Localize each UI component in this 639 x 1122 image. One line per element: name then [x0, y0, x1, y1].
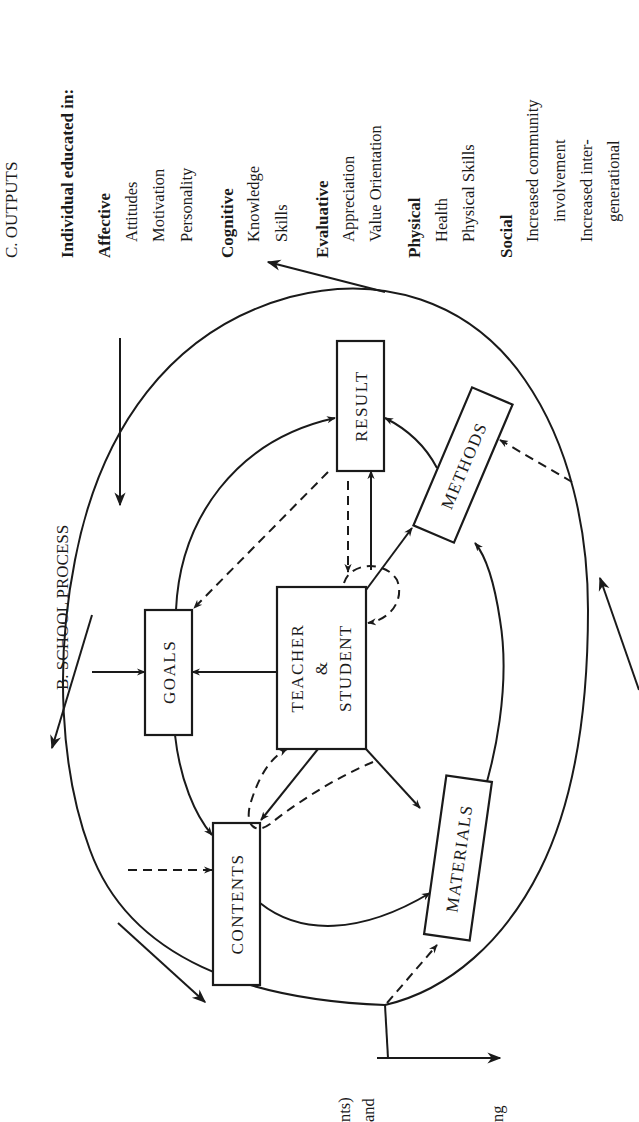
svg-text:Physical Skills: Physical Skills — [459, 144, 478, 242]
svg-text:RESULT: RESULT — [352, 370, 371, 442]
school-process-diagram: B. SCHOOL PROCESS C. OUTPUTS Individual … — [0, 0, 639, 1122]
svg-text:&: & — [312, 661, 331, 676]
svg-text:Motivation: Motivation — [149, 169, 168, 242]
group-cognitive: Cognitive — [218, 188, 237, 258]
outputs-title: C. OUTPUTS — [2, 162, 21, 258]
outputs-heading: Individual educated in: — [58, 89, 77, 258]
svg-text:Personality: Personality — [177, 167, 196, 242]
box-methods: METHODS — [413, 387, 512, 542]
svg-text:Value Orientation: Value Orientation — [366, 125, 385, 242]
svg-text:Knowledge: Knowledge — [244, 166, 263, 242]
group-social: Social — [497, 214, 516, 258]
box-result: RESULT — [337, 341, 384, 471]
box-contents: CONTENTS — [213, 823, 260, 985]
svg-text:TEACHER: TEACHER — [288, 624, 307, 713]
svg-text:ng: ng — [488, 1106, 507, 1122]
svg-text:nts): nts) — [335, 1097, 354, 1122]
group-evaluative: Evaluative — [313, 180, 332, 258]
svg-text:Increased community: Increased community — [523, 99, 542, 242]
svg-text:Attitudes: Attitudes — [122, 182, 141, 243]
svg-text:generational: generational — [604, 140, 623, 222]
group-physical: Physical — [405, 197, 424, 258]
section-c-outputs: C. OUTPUTS Individual educated in: Affec… — [2, 89, 623, 258]
svg-text:Appreciation: Appreciation — [339, 156, 358, 242]
svg-text:involvement: involvement — [550, 139, 569, 222]
svg-text:STUDENT: STUDENT — [336, 624, 355, 712]
svg-text:Skills: Skills — [272, 204, 291, 242]
box-materials: MATERIALS — [424, 776, 492, 941]
svg-text:CONTENTS: CONTENTS — [228, 854, 247, 955]
box-goals: GOALS — [145, 610, 192, 735]
group-affective: Affective — [95, 192, 114, 258]
solid-connectors — [92, 471, 420, 820]
svg-text:and: and — [359, 1097, 378, 1122]
svg-text:GOALS: GOALS — [160, 640, 179, 704]
cropped-input-text: nts) and ng — [335, 1097, 507, 1122]
svg-text:Increased inter-: Increased inter- — [577, 139, 596, 242]
svg-text:Health: Health — [432, 197, 451, 242]
box-teacher-student: TEACHER & STUDENT — [277, 587, 366, 749]
